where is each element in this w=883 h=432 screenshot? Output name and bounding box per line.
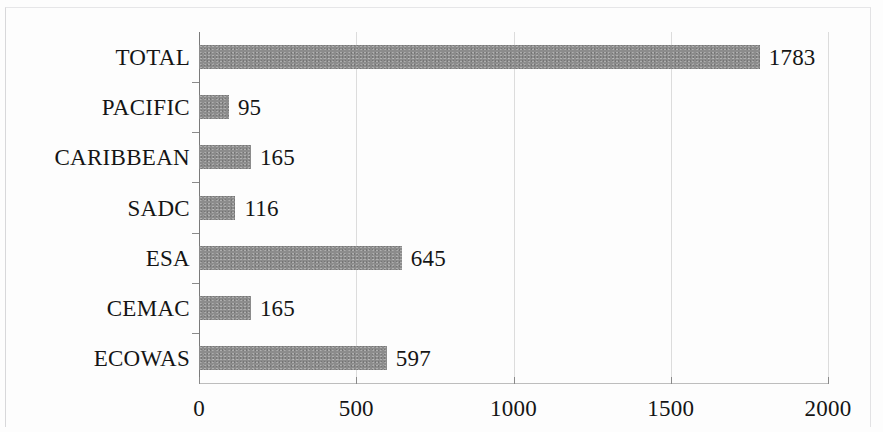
y-tick-1 (192, 82, 199, 83)
category-label-esa: ESA (146, 246, 190, 269)
bar-ecowas[interactable] (199, 346, 387, 370)
bar-row: 645 (0, 246, 883, 270)
x-tick-0 (199, 377, 200, 384)
y-tick-4 (192, 233, 199, 234)
bar-total[interactable] (199, 45, 760, 69)
horizontal-bar-chart: 178395165116645165597 TOTALPACIFICCARIBB… (0, 0, 883, 432)
bar-value-cemac: 165 (260, 296, 295, 319)
x-tick-label-0: 0 (193, 397, 205, 420)
bar-chart-screenshot: 178395165116645165597 TOTALPACIFICCARIBB… (0, 0, 883, 432)
bar-value-ecowas: 597 (396, 346, 431, 369)
bar-value-caribbean: 165 (260, 146, 295, 169)
x-tick-2000 (828, 377, 829, 384)
x-tick-label-1500: 1500 (647, 397, 694, 420)
category-label-caribbean: CARIBBEAN (54, 146, 190, 169)
bar-cemac[interactable] (199, 296, 251, 320)
y-tick-2 (192, 132, 199, 133)
bar-caribbean[interactable] (199, 145, 251, 169)
bar-sadc[interactable] (199, 196, 235, 220)
y-tick-5 (192, 283, 199, 284)
x-tick-1500 (671, 377, 672, 384)
category-label-pacific: PACIFIC (102, 96, 190, 119)
x-tick-label-1000: 1000 (490, 397, 537, 420)
category-label-total: TOTAL (115, 46, 190, 69)
bar-pacific[interactable] (199, 95, 229, 119)
x-tick-1000 (514, 377, 515, 384)
bar-value-esa: 645 (411, 246, 446, 269)
y-tick-6 (192, 333, 199, 334)
x-tick-500 (356, 377, 357, 384)
x-tick-label-500: 500 (339, 397, 374, 420)
y-tick-3 (192, 182, 199, 183)
bar-esa[interactable] (199, 246, 402, 270)
category-label-cemac: CEMAC (107, 296, 190, 319)
category-label-sadc: SADC (127, 196, 190, 219)
category-label-ecowas: ECOWAS (94, 346, 190, 369)
x-tick-label-2000: 2000 (805, 397, 852, 420)
bar-value-total: 1783 (769, 46, 816, 69)
bar-value-sadc: 116 (244, 196, 278, 219)
bar-value-pacific: 95 (238, 96, 261, 119)
